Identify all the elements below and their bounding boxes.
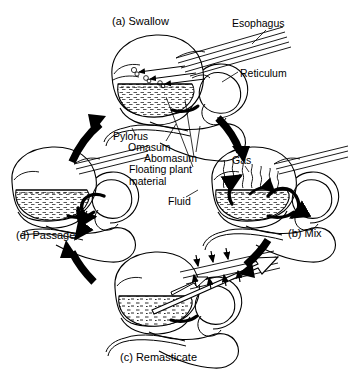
leader-line-gas <box>245 166 249 172</box>
label-floating-plant-material-line2: material <box>129 176 166 188</box>
stage-caption-d-passage: (d) Passage <box>16 230 75 242</box>
label-gas: Gas <box>232 155 251 167</box>
stomach-b-mix <box>203 146 348 262</box>
cycle-arrow-c-to-d <box>60 240 94 282</box>
stomach-d-passage <box>12 146 148 262</box>
diagram-artwork <box>0 0 348 376</box>
label-fluid: Fluid <box>168 196 191 208</box>
cycle-arrow-d-to-a <box>72 114 106 162</box>
stage-caption-a-swallow: (a) Swallow <box>112 16 169 28</box>
label-reticulum: Reticulum <box>240 68 287 80</box>
figure-canvas: (a) Swallow (b) Mix (c) Remasticate (d) … <box>0 0 348 376</box>
stage-caption-c-remasticate: (c) Remasticate <box>120 352 197 364</box>
label-floating-plant-material: Floating plant <box>129 164 192 176</box>
label-esophagus: Esophagus <box>232 18 285 30</box>
stage-caption-b-mix: (b) Mix <box>288 228 322 240</box>
